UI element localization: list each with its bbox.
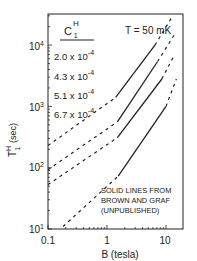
svg-text:103: 103 — [29, 101, 44, 113]
y-tick-labels: 101 102 103 104 — [29, 40, 44, 235]
dashed-line — [48, 97, 116, 145]
x-axis-label: B (tesla) — [101, 249, 138, 260]
chart: 101 102 103 104 0.1 1 10 B (tesla) TH1(s… — [0, 0, 197, 261]
svg-text:TH1(sec): TH1(sec) — [5, 123, 21, 157]
svg-text:6.7 x 10-4: 6.7 x 10-4 — [54, 107, 94, 120]
svg-text:10: 10 — [159, 235, 171, 246]
y-axis-label: TH1(sec) — [5, 123, 21, 157]
temperature-annotation: T = 50 mK — [125, 25, 172, 36]
dashed-line — [48, 122, 117, 170]
svg-text:2.0 x 10-4: 2.0 x 10-4 — [54, 49, 94, 62]
svg-text:BROWN AND GRAF: BROWN AND GRAF — [101, 196, 171, 205]
legend: CH1 2.0 x 10-4 4.3 x 10-4 5.1 x 10-4 6.7… — [54, 19, 94, 120]
dashed-line — [162, 55, 175, 79]
dashed-line — [158, 34, 175, 61]
svg-text:101: 101 — [29, 223, 44, 235]
x-tick-labels: 0.1 1 10 — [41, 235, 171, 246]
dashed-line — [48, 138, 117, 185]
svg-text:0.1: 0.1 — [41, 235, 55, 246]
svg-text:4.3 x 10-4: 4.3 x 10-4 — [54, 69, 94, 82]
svg-text:1: 1 — [104, 235, 110, 246]
svg-text:CH1: CH1 — [64, 19, 79, 39]
svg-text:5.1 x 10-4: 5.1 x 10-4 — [54, 88, 94, 101]
source-annotation: SOLID LINES FROM BROWN AND GRAF (UNPUBLI… — [101, 186, 171, 215]
solid-line — [118, 106, 166, 176]
dashed-line — [166, 79, 176, 106]
svg-text:SOLID LINES FROM: SOLID LINES FROM — [101, 186, 171, 195]
svg-text:104: 104 — [29, 40, 44, 52]
solid-line — [116, 45, 155, 97]
svg-text:(UNPUBLISHED): (UNPUBLISHED) — [101, 206, 160, 215]
svg-text:102: 102 — [29, 161, 44, 173]
